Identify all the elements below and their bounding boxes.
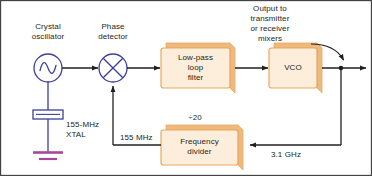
xtal-label: 155-MHz XTAL — [66, 120, 99, 140]
output-note-label: Output to transmitter or receiver mixers — [228, 4, 312, 44]
divide-ratio-label: ÷20 — [175, 113, 215, 123]
feedback-frequency-label: 155 MHz — [120, 133, 153, 143]
vco-output-frequency-label: 3.1 GHz — [258, 150, 314, 160]
divider-block-label: Frequency divider — [161, 137, 238, 157]
vco-block-label: VCO — [269, 63, 317, 73]
pll-block-diagram: Crystal oscillator Phase detector Output… — [0, 0, 372, 176]
phase-detector-label: Phase detector — [85, 22, 141, 42]
crystal-oscillator-label: Crystal oscillator — [18, 22, 78, 42]
filter-block-label: Low-pass loop filter — [161, 53, 230, 83]
